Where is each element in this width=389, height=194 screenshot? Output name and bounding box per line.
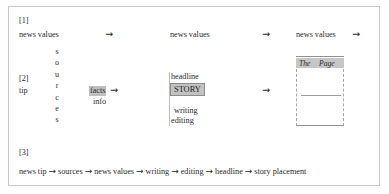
chain-arrow-icon-6: → — [243, 166, 255, 176]
sources-letter-6: e — [52, 103, 62, 114]
chain-step-2: sources — [58, 167, 83, 176]
chain-step-3: news values — [94, 167, 134, 176]
arrow-right-icon-1: → — [105, 29, 113, 39]
editing-label: editing — [171, 116, 194, 126]
story-box: STORY — [170, 83, 205, 96]
chain-arrow-icon-1: → — [47, 166, 59, 176]
masthead-word-the: The — [299, 59, 310, 68]
arrow-right-icon-2: → — [262, 29, 270, 39]
sources-letter-2: o — [52, 57, 62, 68]
chain-step-4: writing — [146, 167, 170, 176]
section-1-marker: [1] — [19, 16, 29, 26]
info-label: info — [93, 97, 106, 107]
arrow-right-icon-to-paper: → — [262, 85, 270, 95]
chain-step-7: story placement — [254, 167, 306, 176]
writing-label: writing — [174, 106, 198, 116]
chain-arrow-icon-4: → — [169, 166, 181, 176]
figure-root: [1] news values → news values → news val… — [0, 0, 389, 194]
newspaper-top-rule — [296, 56, 344, 57]
story-column-rule — [169, 72, 170, 126]
section-1-stage-2-label: news values — [170, 30, 210, 40]
masthead-word-page: Page — [319, 59, 335, 68]
newspaper-masthead: The Page — [296, 58, 344, 68]
section-1-stage-1-label: news values — [19, 30, 59, 40]
sources-vertical-stack: s o u r c e s — [52, 46, 62, 126]
arrow-right-icon-facts: → — [110, 85, 118, 95]
chain-step-1: news tip — [19, 167, 47, 176]
chain-step-6: headline — [215, 167, 243, 176]
newspaper-body — [296, 69, 344, 126]
facts-chip: facts — [89, 86, 106, 96]
section-3-marker: [3] — [19, 148, 29, 158]
sources-letter-7: s — [52, 114, 62, 125]
sources-letter-5: c — [52, 92, 62, 103]
sources-letter-4: r — [52, 80, 62, 91]
chain-arrow-icon-2: → — [83, 166, 95, 176]
news-tip-label: tip — [19, 86, 28, 96]
process-chain: news tip→sources→news values→writing→edi… — [19, 166, 306, 177]
headline-label: headline — [171, 72, 199, 82]
section-1-stage-3-label: news values — [296, 30, 336, 40]
chain-arrow-icon-3: → — [134, 166, 146, 176]
newspaper-divider — [301, 95, 341, 96]
chain-arrow-icon-5: → — [203, 166, 215, 176]
arrow-right-icon-3: → — [352, 29, 360, 39]
section-2-marker: [2] — [19, 74, 29, 84]
sources-letter-3: u — [52, 69, 62, 80]
newspaper-mock: The Page — [296, 56, 344, 126]
chain-step-5: editing — [181, 167, 204, 176]
sources-letter-1: s — [52, 46, 62, 57]
